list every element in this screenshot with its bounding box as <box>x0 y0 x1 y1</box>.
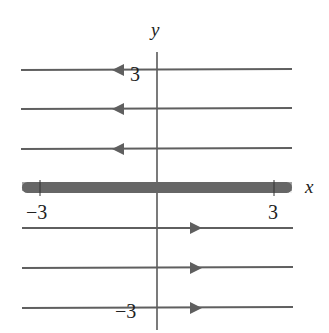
x-tick-label-neg3: −3 <box>26 201 47 223</box>
arrow-right-icon <box>190 222 202 314</box>
x-tick-label-3: 3 <box>268 201 278 223</box>
x-axis-label: x <box>304 176 314 197</box>
y-axis-label: y <box>149 19 160 40</box>
y-tick-label-3: 3 <box>130 63 140 85</box>
equilibrium-line <box>22 182 292 193</box>
y-tick-label-neg3: −3 <box>115 300 136 322</box>
arrow-left-icon <box>112 64 124 155</box>
phase-portrait: y x 3 −3 −3 3 <box>0 0 329 333</box>
